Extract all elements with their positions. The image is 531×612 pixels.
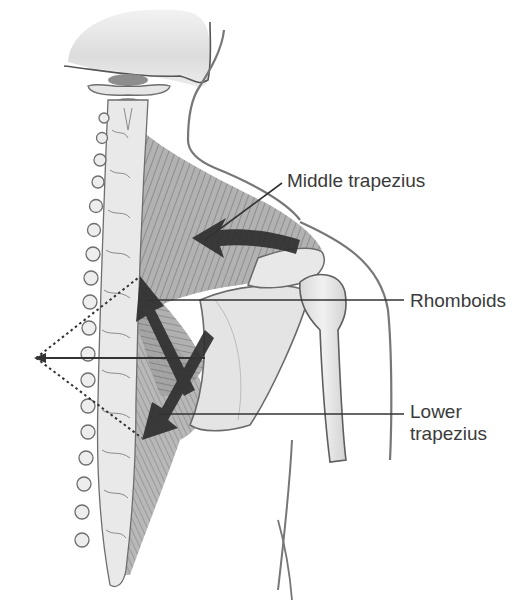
label-rhomboids: Rhomboids (410, 290, 506, 312)
label-lower-trapezius-line1: Lower (410, 401, 462, 423)
torso-outline (278, 440, 292, 590)
scapula (190, 285, 310, 430)
anatomy-figure: Middle trapezius Rhomboids Lower trapezi… (0, 0, 531, 612)
label-lower-trapezius-line2: trapezius (410, 423, 487, 445)
humerus (300, 275, 346, 462)
label-middle-trapezius: Middle trapezius (287, 170, 425, 192)
resultant-arrowhead-icon (34, 353, 46, 363)
